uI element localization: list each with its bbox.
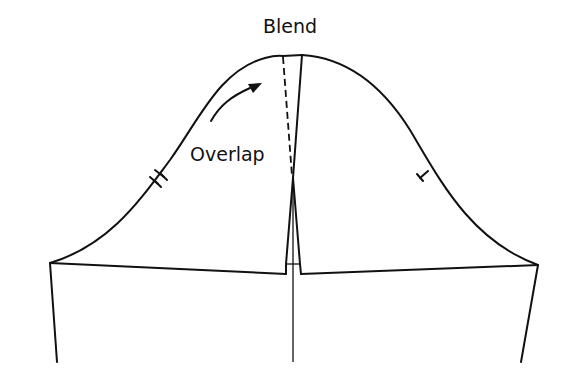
right-cap-curve: [302, 55, 538, 265]
left-biceps-line: [50, 263, 286, 274]
right-biceps-line: [301, 265, 538, 274]
overlap-label: Overlap: [190, 143, 265, 165]
blend-dashed-line: [283, 57, 292, 176]
left-wedge-line: [286, 178, 293, 274]
right-wedge-line: [293, 178, 301, 274]
right-slash-line: [293, 55, 302, 178]
right-underarm-seam: [521, 265, 538, 362]
left-underarm-seam: [50, 263, 57, 362]
blend-label: Blend: [263, 15, 317, 37]
sleeve-cap-diagram: Blend Overlap: [0, 0, 569, 381]
right-notch-icon: [417, 171, 428, 181]
cap-top-segment: [283, 55, 302, 56]
